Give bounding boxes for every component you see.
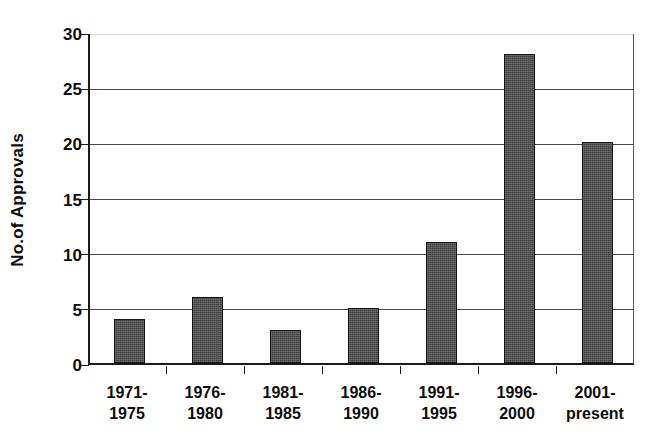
x-tick-mark [556,366,557,374]
bar [270,330,301,363]
x-tick-label-line1: 1991- [419,384,460,401]
y-tick-label-30: 30 [34,26,82,43]
bar [426,242,457,363]
bar [582,142,613,363]
x-tick-label: 1971-1975 [88,382,166,424]
x-tick-label-line2: 1995 [400,403,478,424]
y-tick-mark-30 [80,34,89,35]
y-tick-label-0: 0 [34,357,82,374]
x-tick-label: 1981-1985 [244,382,322,424]
y-axis-title-text: No.of Approvals [8,133,28,267]
x-axis-tick-labels: 1971-19751976-19801981-19851986-19901991… [88,382,634,434]
x-tick-mark [244,366,245,374]
y-tick-label-5: 5 [34,301,82,318]
y-tick-label-25: 25 [34,81,82,98]
y-axis-title: No.of Approvals [0,0,36,400]
x-tick-label-line2: 2000 [478,403,556,424]
bar [504,54,535,363]
y-tick-label-15: 15 [34,191,82,208]
x-tick-label-line1: 1986- [341,384,382,401]
bar [192,297,223,363]
bar [348,308,379,363]
bars-layer [90,34,633,363]
x-tick-mark [166,366,167,374]
x-tick-label: 1976-1980 [166,382,244,424]
x-tick-label: 1996-2000 [478,382,556,424]
x-tick-label-line2: 1990 [322,403,400,424]
x-tick-label-line2: present [556,403,634,424]
y-axis-tick-labels: 051015202530 [34,34,82,365]
bar [114,319,145,363]
y-tick-label-20: 20 [34,136,82,153]
x-tick-label-line2: 1985 [244,403,322,424]
x-tick-mark [322,366,323,374]
x-tick-label-line1: 1996- [497,384,538,401]
x-tick-label: 2001-present [556,382,634,424]
x-tick-label-line2: 1975 [88,403,166,424]
x-tick-label-line2: 1980 [166,403,244,424]
x-tick-mark [400,366,401,374]
y-tick-mark-5 [80,309,89,310]
x-tick-label-line1: 1981- [263,384,304,401]
bar-chart: No.of Approvals 051015202530 1971-197519… [0,0,651,441]
x-tick-mark [478,366,479,374]
y-tick-mark-0 [80,365,89,366]
x-tick-label-line1: 1976- [185,384,226,401]
x-tick-label: 1991-1995 [400,382,478,424]
plot-area [88,34,634,365]
x-tick-label-line1: 2001- [575,384,616,401]
y-tick-label-10: 10 [34,246,82,263]
y-tick-mark-20 [80,144,89,145]
x-tick-label: 1986-1990 [322,382,400,424]
x-tick-label-line1: 1971- [107,384,148,401]
y-tick-mark-15 [80,199,89,200]
y-tick-mark-25 [80,89,89,90]
y-tick-mark-10 [80,254,89,255]
